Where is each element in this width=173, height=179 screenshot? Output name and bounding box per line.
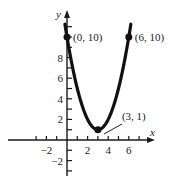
data-point: [125, 34, 132, 41]
y-tick-label: 8: [58, 52, 64, 64]
x-tick-label: 4: [105, 144, 111, 156]
y-axis-arrow-icon: [64, 10, 70, 18]
x-axis-label: x: [149, 126, 155, 138]
x-axis: [8, 137, 155, 143]
point-label: (3, 1): [122, 110, 146, 123]
y-tick-label: −2: [51, 155, 63, 167]
vertex-leader-line: [104, 124, 122, 134]
point-label: (6, 10): [135, 31, 165, 44]
parabola-chart: −2246 −22468 x y (0, 10)(6, 10)(3, 1): [0, 0, 173, 179]
y-axis-label: y: [55, 8, 61, 20]
y-tick-label: 2: [58, 113, 64, 125]
labeled-points: (0, 10)(6, 10)(3, 1): [64, 31, 165, 133]
point-label: (0, 10): [73, 31, 103, 44]
x-tick-label: 6: [126, 144, 132, 156]
x-tick-label: 2: [85, 144, 91, 156]
data-point: [94, 126, 101, 133]
x-ticks: −2246: [36, 136, 139, 156]
y-tick-label: 6: [58, 72, 64, 84]
y-tick-label: 4: [58, 93, 64, 105]
data-point: [64, 34, 71, 41]
